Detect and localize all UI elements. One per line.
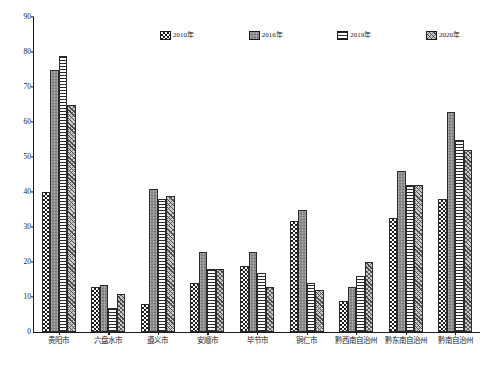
bar-2020年-六盘水市[interactable] [117, 294, 126, 333]
bar-2020年-黔东南自治州[interactable] [414, 185, 423, 332]
x-axis-tick-mark [356, 332, 357, 335]
x-axis-category-label: 黔东南自治州 [385, 336, 427, 345]
bar-2019年-贵阳市[interactable] [59, 56, 68, 333]
bar-2020年-安顺市[interactable] [216, 269, 225, 332]
bar-2019年-安顺市[interactable] [207, 269, 216, 332]
bar-group: 六盘水市 [84, 17, 134, 332]
plot-area: 0102030405060708090 贵阳市六盘水市遵义市安顺市毕节市铜仁市黔… [33, 17, 480, 333]
x-axis-category-label: 贵阳市 [48, 336, 69, 345]
x-axis-category-label: 铜仁市 [296, 336, 317, 345]
bar-2010年-黔西南自治州[interactable] [339, 301, 348, 333]
bar-group: 黔东南自治州 [381, 17, 431, 332]
bar-2016年-毕节市[interactable] [249, 252, 258, 333]
bar-2019年-毕节市[interactable] [257, 273, 266, 333]
x-axis-tick-mark [257, 332, 258, 335]
bar-2016年-安顺市[interactable] [199, 252, 208, 333]
x-axis-category-label: 黔南自治州 [438, 336, 473, 345]
bar-2016年-贵阳市[interactable] [50, 70, 59, 333]
x-axis-category-label: 安顺市 [197, 336, 218, 345]
bar-2016年-遵义市[interactable] [149, 189, 158, 333]
x-axis-tick-mark [108, 332, 109, 335]
x-axis-tick-mark [207, 332, 208, 335]
bar-2010年-贵阳市[interactable] [42, 192, 51, 332]
bar-2019年-六盘水市[interactable] [108, 308, 117, 333]
bar-2019年-黔西南自治州[interactable] [356, 276, 365, 332]
bar-2020年-黔南自治州[interactable] [464, 150, 473, 332]
x-axis-category-label: 遵义市 [147, 336, 168, 345]
bar-2010年-安顺市[interactable] [190, 283, 199, 332]
bar-2016年-黔西南自治州[interactable] [348, 287, 357, 333]
bar-2016年-铜仁市[interactable] [298, 210, 307, 333]
bar-2010年-铜仁市[interactable] [290, 221, 299, 332]
x-axis-tick-mark [158, 332, 159, 335]
bar-2016年-黔南自治州[interactable] [447, 112, 456, 333]
bar-group: 遵义市 [133, 17, 183, 332]
bar-group: 毕节市 [232, 17, 282, 332]
bar-2010年-黔东南自治州[interactable] [389, 218, 398, 332]
x-axis-category-label: 六盘水市 [94, 336, 122, 345]
y-axis-tick-label: 0 [27, 328, 31, 336]
bar-2020年-毕节市[interactable] [266, 287, 275, 333]
x-axis-tick-mark [59, 332, 60, 335]
bar-2019年-黔东南自治州[interactable] [406, 185, 415, 332]
bar-2010年-毕节市[interactable] [240, 266, 249, 333]
bar-2019年-遵义市[interactable] [158, 199, 167, 332]
bar-group: 黔西南自治州 [331, 17, 381, 332]
x-axis-tick-mark [307, 332, 308, 335]
bar-2010年-遵义市[interactable] [141, 304, 150, 332]
bar-group: 贵阳市 [34, 17, 84, 332]
bar-2020年-贵阳市[interactable] [67, 105, 76, 333]
x-axis-category-label: 毕节市 [247, 336, 268, 345]
bar-groups: 贵阳市六盘水市遵义市安顺市毕节市铜仁市黔西南自治州黔东南自治州黔南自治州 [34, 17, 480, 332]
bar-2020年-铜仁市[interactable] [315, 290, 324, 332]
bar-2019年-铜仁市[interactable] [307, 283, 316, 332]
bar-2016年-黔东南自治州[interactable] [397, 171, 406, 332]
bar-2020年-遵义市[interactable] [166, 196, 175, 333]
bar-2016年-六盘水市[interactable] [100, 285, 109, 332]
bar-2010年-黔南自治州[interactable] [438, 199, 447, 332]
bar-group: 黔南自治州 [431, 17, 481, 332]
bar-2010年-六盘水市[interactable] [91, 287, 100, 333]
bar-chart: 2010年2016年2019年2020年 0102030405060708090… [0, 0, 485, 365]
bar-group: 铜仁市 [282, 17, 332, 332]
x-axis-tick-mark [406, 332, 407, 335]
bar-2019年-黔南自治州[interactable] [455, 140, 464, 333]
bar-2020年-黔西南自治州[interactable] [365, 262, 374, 332]
x-axis-tick-mark [455, 332, 456, 335]
x-axis-category-label: 黔西南自治州 [335, 336, 377, 345]
bar-group: 安顺市 [183, 17, 233, 332]
